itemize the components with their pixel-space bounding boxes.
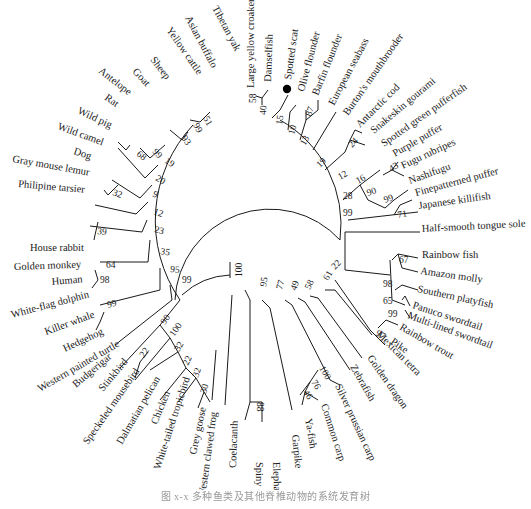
bootstrap-value: 9 bbox=[151, 189, 160, 200]
taxon-label: Wild pig bbox=[76, 105, 115, 131]
bootstrap-value: 77 bbox=[274, 279, 286, 291]
taxon-label: Philipine tarsier bbox=[18, 178, 86, 195]
bootstrap-value: 65 bbox=[383, 296, 393, 306]
bootstrap-value: 32 bbox=[190, 366, 203, 379]
bootstrap-value: 93 bbox=[179, 133, 193, 147]
bootstrap-value: 68 bbox=[135, 149, 149, 163]
taxon-label: Coelacanth bbox=[227, 420, 240, 468]
bootstrap-value: 95 bbox=[258, 276, 270, 287]
bootstrap-value: 13 bbox=[298, 134, 312, 147]
taxon-label: Spiny dogfish bbox=[254, 462, 265, 490]
bootstrap-value: 90 bbox=[365, 185, 378, 198]
taxon-label: Large yellow croaker bbox=[245, 0, 256, 88]
bootstrap-value: 23 bbox=[153, 224, 165, 236]
bootstrap-value: 39 bbox=[97, 226, 108, 237]
bootstrap-value: 32 bbox=[111, 187, 124, 200]
bootstrap-value: 58 bbox=[303, 278, 316, 291]
taxon-label: Dog bbox=[72, 145, 93, 161]
bootstrap-value: 95 bbox=[170, 264, 181, 275]
taxon-label: Tibetan yak bbox=[210, 4, 243, 54]
bootstrap-value: 99 bbox=[151, 147, 165, 161]
bootstrap-value: 71 bbox=[397, 208, 408, 220]
bootstrap-value: 30 bbox=[198, 383, 210, 395]
bootstrap-value: 100 bbox=[167, 321, 184, 339]
taxon-label: Amazon molly bbox=[420, 265, 484, 285]
bootstrap-value: 99 bbox=[388, 309, 398, 319]
bootstrap-value: 49 bbox=[288, 279, 301, 292]
bootstrap-value: 61 bbox=[321, 269, 335, 282]
bootstrap-value: 22 bbox=[181, 354, 194, 367]
bootstrap-value: 20 bbox=[154, 173, 167, 187]
bootstrap-value: 28 bbox=[343, 191, 353, 201]
bootstrap-value: 99 bbox=[191, 121, 204, 134]
bootstrap-values: 5199939968192032912392335649895999990100… bbox=[97, 93, 409, 412]
bootstrap-value: 100 bbox=[234, 263, 244, 278]
taxon-label: Golden monkey bbox=[14, 259, 82, 272]
bootstrap-value: 98 bbox=[383, 279, 393, 289]
bootstrap-value: 98 bbox=[100, 275, 110, 285]
bootstrap-value: 10 bbox=[286, 124, 298, 136]
bootstrap-value: 40 bbox=[258, 105, 268, 115]
bootstrap-value: 15 bbox=[274, 114, 285, 125]
bootstrap-value: 99 bbox=[182, 275, 192, 285]
bootstrap-value: 12 bbox=[152, 206, 165, 219]
bootstrap-value: 88 bbox=[255, 402, 265, 412]
taxon-label: Human bbox=[51, 273, 83, 287]
taxon-label: Elephant shark bbox=[271, 462, 284, 490]
bootstrap-value: 16 bbox=[354, 172, 367, 186]
figure-caption: 图 x-x 多种鱼类及其他脊椎动物的系统发育树 bbox=[0, 488, 531, 503]
taxon-label: House rabbit bbox=[30, 242, 84, 253]
taxon-label: Half-smooth tongue sole bbox=[422, 218, 527, 234]
taxon-label: Rainbow fish bbox=[422, 249, 479, 260]
bootstrap-value: 32 bbox=[172, 340, 186, 353]
tree-svg: Tibetan yakAsian buffaloYellow cattleShe… bbox=[0, 0, 531, 490]
bootstrap-value: 19 bbox=[163, 155, 177, 169]
bootstrap-value: 67 bbox=[399, 255, 409, 265]
taxon-label: Antelope bbox=[97, 65, 134, 98]
taxon-label: Damselfish bbox=[262, 33, 275, 82]
taxon-label: Spotted scat bbox=[282, 28, 300, 80]
taxon-label: Ya-fish bbox=[303, 417, 319, 450]
bootstrap-value: 87 bbox=[303, 105, 316, 118]
bootstrap-value: 58 bbox=[248, 93, 258, 103]
highlight-marker-spotted-scat bbox=[283, 85, 291, 93]
bootstrap-value: 35 bbox=[160, 246, 171, 258]
taxon-label: Common carp bbox=[319, 402, 348, 462]
bootstrap-value: 99 bbox=[382, 192, 395, 205]
bootstrap-value: 64 bbox=[106, 260, 116, 270]
bootstrap-value: 100 bbox=[317, 364, 333, 382]
bootstrap-value: 24 bbox=[346, 135, 360, 149]
bootstrap-value: 12 bbox=[336, 168, 349, 182]
bootstrap-value: 99 bbox=[106, 298, 118, 310]
bootstrap-value: 99 bbox=[343, 208, 353, 218]
taxon-label: Sheep bbox=[148, 54, 172, 81]
taxon-label: Goat bbox=[131, 66, 153, 88]
phylogenetic-tree-figure: Tibetan yakAsian buffaloYellow cattleShe… bbox=[0, 0, 531, 509]
taxon-label: Garpike bbox=[290, 434, 305, 469]
bootstrap-value: 22 bbox=[329, 257, 343, 271]
taxon-labels: Tibetan yakAsian buffaloYellow cattleShe… bbox=[10, 0, 526, 490]
taxon-label: Rat bbox=[103, 92, 121, 109]
